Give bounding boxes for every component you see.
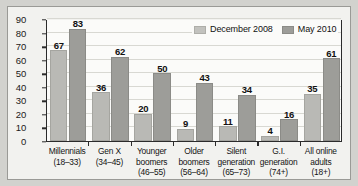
y-axis-tick-mark	[42, 33, 46, 34]
bar-value-label: 62	[115, 47, 125, 57]
y-axis-tick-label: 50	[0, 69, 26, 79]
gridline	[47, 72, 341, 73]
x-axis-category-label-line: Silent	[226, 146, 246, 156]
y-axis-tick-label: 60	[0, 56, 26, 66]
bar-value-label: 9	[183, 119, 188, 129]
y-axis-tick-mark	[42, 60, 46, 61]
bar: 11	[219, 126, 237, 141]
chart-card: 67833662205094311344163561 December 2008…	[7, 6, 351, 180]
chart-figure: 67833662205094311344163561 December 2008…	[0, 0, 358, 186]
bar: 50	[153, 73, 171, 141]
y-axis-tick-mark	[42, 114, 46, 115]
bar-value-label: 4	[268, 126, 273, 136]
y-axis-tick-mark	[42, 19, 46, 20]
bar: 9	[177, 129, 195, 141]
x-axis-category-label-line: Younger	[137, 146, 167, 156]
bar-value-label: 36	[96, 83, 106, 93]
bar: 61	[323, 58, 341, 141]
bar-value-label: 16	[284, 110, 294, 120]
bar: 43	[196, 83, 214, 141]
x-axis-category-label-line: Millennials	[49, 146, 86, 156]
bar: 35	[304, 94, 322, 141]
y-axis-tick-label: 30	[0, 97, 26, 107]
bar-value-label: 83	[73, 19, 83, 29]
bar-value-label: 50	[157, 64, 167, 74]
x-axis-category-label: All onlineadults(18+)	[296, 146, 346, 178]
gridline	[47, 45, 341, 46]
y-axis-tick-label: 70	[0, 42, 26, 52]
legend-item: May 2010	[282, 25, 337, 34]
y-axis-tick-mark	[42, 141, 46, 142]
gridline	[47, 59, 341, 60]
legend-swatch	[194, 26, 206, 34]
bar: 62	[111, 57, 129, 141]
bar-value-label: 43	[200, 73, 210, 83]
x-axis-category-label-line: adults	[296, 157, 346, 168]
gridline	[47, 86, 341, 87]
bar-value-label: 11	[223, 117, 232, 127]
plot-area: 67833662205094311344163561	[46, 20, 342, 142]
y-axis-tick-label: 20	[0, 110, 26, 120]
gridline	[47, 18, 341, 19]
x-axis-category-label-line: Gen X	[98, 146, 121, 156]
y-axis-tick-mark	[42, 74, 46, 75]
bar: 16	[280, 119, 298, 141]
bar-value-label: 20	[138, 104, 148, 114]
y-axis-tick-label: 40	[0, 83, 26, 93]
bar: 83	[69, 29, 87, 142]
bar: 34	[238, 95, 256, 141]
bar: 4	[261, 136, 279, 141]
bar-value-label: 35	[307, 84, 317, 94]
chart-legend: December 2008May 2010	[192, 24, 338, 35]
bar: 20	[134, 114, 152, 141]
x-axis-category-label-line: Older	[184, 146, 203, 156]
y-axis-tick-label: 90	[0, 15, 26, 25]
legend-swatch	[282, 26, 294, 34]
bar-value-label: 34	[242, 85, 252, 95]
gridline	[47, 113, 341, 114]
y-axis-tick-mark	[42, 101, 46, 102]
x-axis-category-label-line: All online	[305, 146, 337, 156]
y-axis-tick-label: 0	[0, 137, 26, 147]
x-axis-category-label-line: G.I.	[272, 146, 285, 156]
bar-value-label: 61	[326, 49, 336, 59]
x-axis-category-label-line: (18+)	[296, 167, 346, 178]
bar-value-label: 67	[54, 41, 64, 51]
y-axis-tick-label: 80	[0, 29, 26, 39]
y-axis-tick-label: 10	[0, 124, 26, 134]
bar: 36	[92, 92, 110, 141]
y-axis-tick-mark	[42, 128, 46, 129]
bar: 67	[50, 50, 68, 141]
legend-item: December 2008	[194, 25, 273, 34]
gridline	[47, 99, 341, 100]
y-axis-tick-mark	[42, 87, 46, 88]
legend-label: May 2010	[298, 25, 337, 34]
legend-label: December 2008	[210, 25, 273, 34]
y-axis-tick-mark	[42, 46, 46, 47]
